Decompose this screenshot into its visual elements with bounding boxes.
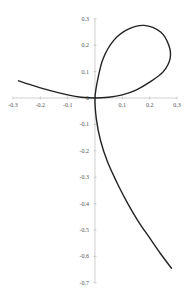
chart: -0.3-0.2-0.10.10.20.30.30.20.10-0.1-0.2-… (0, 0, 189, 298)
y-tick-label: 0.1 (82, 69, 90, 75)
axes (13, 19, 177, 283)
x-tick-label: -0.2 (36, 102, 46, 108)
x-tick-label: 0.1 (119, 102, 127, 108)
y-tick-label: -0.1 (80, 121, 90, 127)
y-tick-label: 0.3 (82, 16, 90, 22)
x-tick-label: -0.3 (8, 102, 18, 108)
x-tick-label: 0.2 (146, 102, 154, 108)
y-tick-label: -0.5 (80, 227, 90, 233)
y-tick-label: 0.2 (82, 42, 90, 48)
y-tick-label: -0.4 (80, 201, 90, 207)
y-tick-label: -0.3 (80, 174, 90, 180)
y-tick-label: -0.6 (80, 253, 90, 259)
y-tick-label: -0.7 (80, 280, 90, 286)
x-tick-label: 0.3 (173, 102, 181, 108)
y-tick-label: -0.2 (80, 148, 90, 154)
x-tick-label: -0.1 (63, 102, 73, 108)
